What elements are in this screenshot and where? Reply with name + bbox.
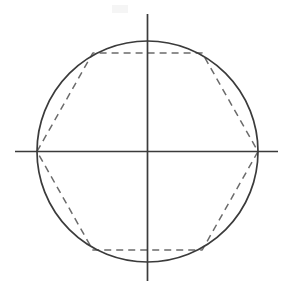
scan-artifact (112, 5, 128, 13)
figure-canvas (0, 0, 294, 294)
geometry-figure (0, 0, 294, 294)
